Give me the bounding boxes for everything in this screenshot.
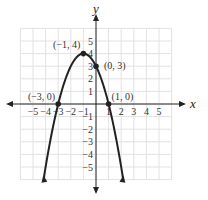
y-tick-label: 1 xyxy=(88,86,93,97)
y-arrow-down-icon xyxy=(93,187,99,194)
y-axis-label: y xyxy=(91,1,99,16)
y-tick-label: −2 xyxy=(82,124,93,135)
point-label: (−1, 4) xyxy=(53,39,80,51)
x-tick-label: 4 xyxy=(144,106,149,117)
y-tick-label: −5 xyxy=(82,162,93,173)
x-tick-label: −2 xyxy=(65,106,76,117)
point-label: (1, 0) xyxy=(112,91,134,103)
y-tick-label: 2 xyxy=(88,73,93,84)
y-tick-label: −1 xyxy=(82,111,93,122)
labeled-points: (−1, 4)(0, 3)(−3, 0)(1, 0) xyxy=(28,39,133,107)
y-tick-label: −4 xyxy=(82,149,93,160)
y-tick-label: −3 xyxy=(82,136,93,147)
point-marker xyxy=(93,63,99,69)
parabola-chart: x y −5−4−3−2−11234554321−1−2−3−4−5 (−1, … xyxy=(0,0,208,200)
point-label: (−3, 0) xyxy=(28,91,55,103)
x-arrow-right-icon xyxy=(179,101,186,107)
x-tick-label: 2 xyxy=(119,106,124,117)
y-tick-label: 3 xyxy=(88,61,93,72)
x-tick-label: 5 xyxy=(157,106,162,117)
point-label: (0, 3) xyxy=(104,60,126,72)
y-tick-label: 5 xyxy=(88,36,93,47)
x-tick-label: −5 xyxy=(28,106,39,117)
x-tick-label: 3 xyxy=(131,106,136,117)
x-axis-label: x xyxy=(189,96,196,111)
point-marker xyxy=(81,51,87,57)
point-marker xyxy=(106,101,112,107)
x-tick-label: −4 xyxy=(40,106,51,117)
x-arrow-left-icon xyxy=(6,101,13,107)
point-marker xyxy=(55,101,61,107)
